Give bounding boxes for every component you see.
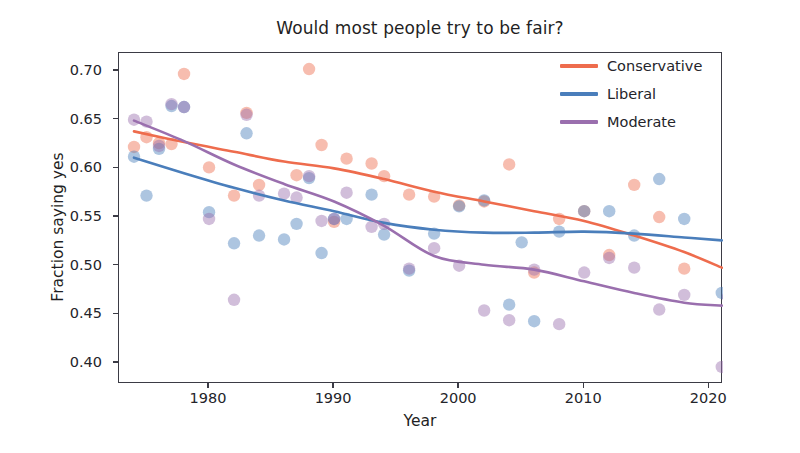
scatter-point [578,205,590,217]
y-tick-label: 0.40 [46,354,102,370]
scatter-point [503,158,515,170]
scatter-point [678,289,690,301]
scatter-point [328,213,340,225]
y-tick-label: 0.55 [46,208,102,224]
scatter-point [678,262,690,274]
scatter-point [303,170,315,182]
chart-legend: ConservativeLiberalModerate [560,58,702,130]
scatter-point [653,303,665,315]
scatter-point [178,68,190,80]
y-tick-label: 0.45 [46,305,102,321]
scatter-point [378,228,390,240]
scatter-point [428,242,440,254]
chart-title: Would most people try to be fair? [118,18,722,38]
y-tick-label: 0.70 [46,62,102,78]
scatter-point [478,304,490,316]
scatter-point [403,188,415,200]
legend-item[interactable]: Moderate [560,114,702,130]
scatter-point [365,188,377,200]
trend-line [134,158,722,241]
scatter-point [515,236,527,248]
y-tick-label: 0.50 [46,257,102,273]
scatter-point [203,161,215,173]
y-tick-label: 0.60 [46,159,102,175]
x-tick-label: 2010 [548,390,618,406]
scatter-point [253,229,265,241]
scatter-point [303,63,315,75]
scatter-point [628,179,640,191]
scatter-point [403,262,415,274]
x-tick-label: 1990 [298,390,368,406]
legend-label: Moderate [607,114,676,130]
scatter-point [503,314,515,326]
scatter-point [653,211,665,223]
scatter-point [653,173,665,185]
scatter-point [315,247,327,259]
x-tick-label: 2000 [423,390,493,406]
scatter-point [716,361,723,373]
scatter-point [153,140,165,152]
y-tick-label: 0.65 [46,111,102,127]
scatter-point [528,315,540,327]
legend-label: Conservative [607,58,702,74]
scatter-point [290,169,302,181]
scatter-point [165,98,177,110]
scatter-point [603,205,615,217]
x-axis-label: Year [118,412,722,430]
legend-label: Liberal [607,86,656,102]
x-tick-label: 1980 [173,390,243,406]
scatter-point [240,109,252,121]
scatter-point [228,189,240,201]
scatter-point [178,101,190,113]
scatter-point [678,213,690,225]
legend-item[interactable]: Conservative [560,58,702,74]
scatter-point [290,218,302,230]
scatter-point [278,233,290,245]
scatter-point [453,200,465,212]
scatter-point [340,187,352,199]
scatter-point [278,187,290,199]
scatter-point [228,294,240,306]
legend-item[interactable]: Liberal [560,86,702,102]
legend-swatch-icon [560,64,598,67]
scatter-point [315,139,327,151]
scatter-point [228,237,240,249]
x-tick-label: 2020 [673,390,743,406]
scatter-point [253,179,265,191]
scatter-point [315,215,327,227]
scatter-point [553,318,565,330]
legend-swatch-icon [560,92,598,95]
scatter-point [365,157,377,169]
scatter-point [203,213,215,225]
trend-line [134,131,722,267]
scatter-point [140,189,152,201]
scatter-point [240,127,252,139]
scatter-point [603,252,615,264]
scatter-point [578,266,590,278]
legend-swatch-icon [560,120,598,123]
scatter-point [340,152,352,164]
chart-figure: Would most people try to be fair? Fracti… [0,0,800,453]
scatter-point [628,261,640,273]
scatter-point [503,298,515,310]
